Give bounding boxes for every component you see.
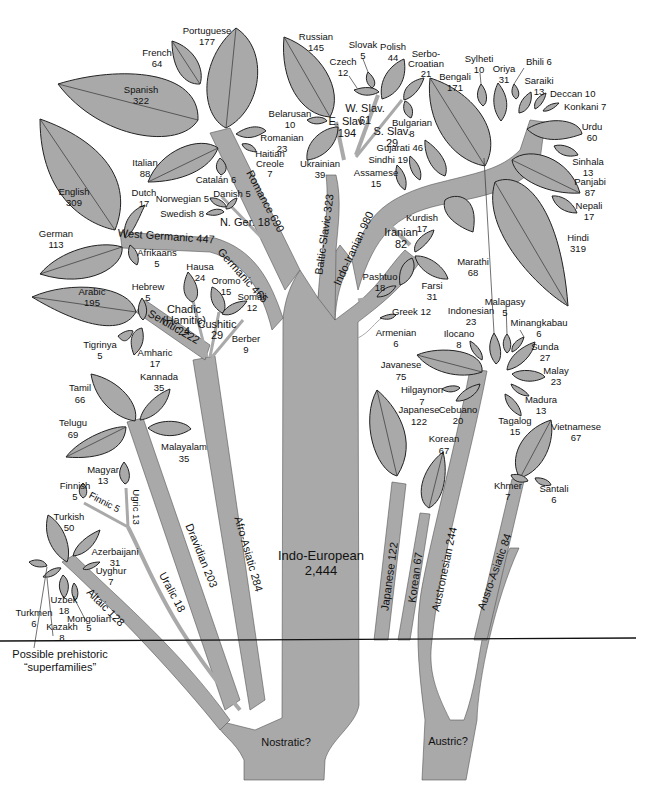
label-tigrinya: Tigrinya5 [83, 339, 117, 361]
label-sindhi: Sindhi 19 [368, 154, 408, 165]
ugric-twig [126, 488, 128, 527]
label-armenian: Armenian6 [376, 327, 417, 349]
label-minangkabau: Minangkabau6 [510, 317, 567, 339]
label-danish: Danish 5 [213, 188, 251, 199]
label-kannada: Kannada35 [140, 371, 179, 393]
leaf-malayalam [148, 421, 191, 435]
leaf-hilgaynon [442, 386, 460, 392]
label-hebrew: Hebrew5 [132, 281, 165, 303]
leaf-kannada [140, 389, 170, 420]
label-farsi: Farsi31 [421, 280, 442, 302]
label-czech: Czech12 [330, 56, 357, 78]
leaf-bulgarian [404, 101, 413, 118]
label-norwegian: Norwegian 5 [156, 193, 209, 204]
leaf-sinhala [554, 145, 578, 156]
label-marathi: Marathi68 [457, 256, 489, 278]
leaf-saraiki [519, 92, 531, 113]
label-telugu: Telugu69 [59, 417, 87, 440]
leaf-marathi [444, 196, 474, 232]
leaf-czech [354, 88, 379, 96]
label-sunda: Sunda27 [531, 341, 559, 363]
leaf-sindhi [409, 156, 420, 180]
leaf-english [40, 119, 121, 230]
label-vietnamese: Vietnamese67 [551, 421, 601, 443]
leaf-ukrainian [307, 127, 338, 160]
label-ilocano: Ilocano8 [444, 328, 475, 350]
label-afrikaans: Afrikaans5 [137, 247, 177, 269]
label-urdu: Urdu60 [582, 121, 603, 143]
leaf-bhili [512, 84, 519, 99]
label-amharic: Amharic17 [138, 347, 173, 369]
label-haitian-creole: HaitianCreole7 [255, 148, 285, 179]
label-iranian: Iranian82 [384, 226, 418, 250]
label-kazakh: Kazakh8 [46, 621, 78, 643]
label-assamese: Assamese15 [354, 167, 398, 189]
leaf-turkmen [29, 560, 47, 567]
leaf-javanese [417, 350, 482, 375]
label-tamil: Tamil66 [69, 382, 91, 405]
label-nostratic: Nostratic? [261, 736, 311, 748]
leaf-konkani [543, 103, 559, 111]
leaf-nepali [552, 196, 577, 213]
label-javanese: Javanese75 [381, 359, 422, 382]
leaf-oriya [494, 83, 507, 121]
label-oriya: Oriya31 [493, 63, 516, 85]
leaf-tigrinya [118, 331, 133, 341]
label-malayalam: Malayalam35 [161, 441, 207, 464]
label-ugric: Ugric 13 [131, 489, 142, 524]
label-berber: Berber9 [232, 333, 261, 355]
label-tagalog: Tagalog15 [498, 415, 531, 437]
divider-caption: Possible prehistoric“superfamilies” [12, 648, 108, 673]
leaf-malagasy [503, 334, 511, 353]
label-gujarati: Gujarati 46 [377, 142, 423, 153]
label-madura: Madura13 [525, 394, 558, 416]
label-nepali: Nepali17 [576, 200, 603, 222]
label-japanese: Japanese122 [398, 404, 439, 427]
leaf-tamil [91, 374, 136, 421]
label-belarusan: Belarusan10 [269, 108, 312, 130]
label-malay: Malay23 [543, 365, 569, 387]
leaf-indonesian [490, 333, 501, 364]
label-finnic: Finnic 5 [87, 489, 122, 514]
language-tree-diagram: Portuguese177 French64 Spanish322 Italia… [0, 0, 654, 794]
label-north-germanic: N. Ger. 18 [220, 216, 270, 228]
leaf-polish [381, 59, 405, 99]
label-swedish: Swedish 8 [160, 208, 204, 219]
afro-asiatic-branch [193, 356, 265, 710]
label-indonesian: Indonesian23 [448, 305, 494, 327]
label-sinhala: Sinhala13 [572, 156, 604, 178]
leaf-haitian [242, 144, 256, 152]
label-santali: Santali6 [539, 483, 568, 505]
label-deccan: Deccan 10 [550, 88, 595, 99]
label-magyar: Magyar13 [87, 464, 119, 486]
leaf-farsi [415, 256, 448, 279]
label-dutch: Dutch17 [132, 187, 157, 209]
leaf-sylheti [477, 84, 486, 106]
label-german: German113 [39, 228, 73, 250]
leaf-slovak [366, 72, 374, 88]
leaf-gujarati [425, 140, 446, 176]
label-french: French64 [142, 47, 172, 69]
leaf-tagalog [505, 394, 521, 416]
label-bhili: Bhili 6 [526, 56, 552, 67]
label-panjabi: Panjabi87 [574, 176, 606, 198]
leaf-malay [512, 370, 545, 381]
label-hindi: Hindi319 [567, 232, 589, 254]
label-greek: Greek 12 [392, 306, 431, 317]
label-catalan: Catalán 6 [196, 174, 237, 185]
leaf-serbo-croatian [404, 78, 424, 100]
leaf-magyar [120, 462, 130, 484]
label-austric: Austric? [428, 735, 468, 747]
label-konkani: Konkani 7 [564, 101, 606, 112]
austronesian-branch [418, 369, 519, 780]
leaf-japanese [370, 390, 407, 476]
leaf-somali [222, 301, 247, 315]
leaf-swedish [206, 209, 224, 215]
